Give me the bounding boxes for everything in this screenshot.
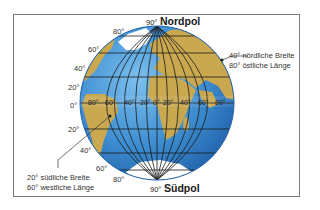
lon-label-80w: 80° <box>88 99 99 106</box>
north-pole-label: 90° Nordpol <box>146 16 200 27</box>
lon-label-40w: 40° <box>124 99 135 106</box>
lon-label-40e: 40° <box>180 99 191 106</box>
lat-label-60n: 60° <box>88 46 99 54</box>
lat-label-20s: 20° <box>68 126 79 134</box>
lat-label-80n: 80° <box>113 28 124 36</box>
annotation-southwest-line2: 60° westliche Länge <box>27 183 94 193</box>
annotation-northeast-line1: 40° nördliche Breite <box>229 51 295 61</box>
lat-label-equator: 0° <box>70 102 77 110</box>
lat-label-60s: 60° <box>96 165 107 173</box>
annotation-northeast: 40° nördliche Breite 80° östliche Länge <box>229 51 295 71</box>
south-pole-label: 90° Südpol <box>150 183 200 194</box>
annotation-southwest-line1: 20° südliche Breite <box>27 173 94 183</box>
annotation-southwest: 20° südliche Breite 60° westliche Länge <box>27 173 94 193</box>
lat-label-80s: 80° <box>113 176 124 184</box>
lat-label-40n: 40° <box>74 65 85 73</box>
lon-label-20w: 20° <box>140 99 151 106</box>
lon-label-20e: 20° <box>163 99 174 106</box>
south-pole-degree: 90° <box>150 185 161 194</box>
lon-label-80e: 80° <box>215 99 226 106</box>
lon-label-60w: 60° <box>105 99 116 106</box>
north-pole-name: Nordpol <box>160 15 200 27</box>
lat-label-40s: 40° <box>80 147 91 155</box>
north-pole-degree: 90° <box>146 18 157 27</box>
south-pole-name: Südpol <box>164 182 200 194</box>
lon-label-0: 0° <box>153 99 160 106</box>
lon-label-60e: 60° <box>198 99 209 106</box>
annotation-northeast-line2: 80° östliche Länge <box>229 61 295 71</box>
lat-label-20n: 20° <box>68 84 79 92</box>
